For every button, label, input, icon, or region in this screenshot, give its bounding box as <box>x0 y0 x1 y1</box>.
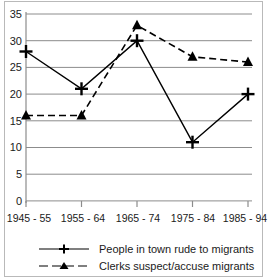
legend-item-people[interactable]: People in town rude to migrants <box>38 241 254 257</box>
series-people-markers <box>20 34 255 149</box>
series-people-line <box>26 41 248 143</box>
x-axis-ticks <box>26 201 248 207</box>
plot-area <box>0 0 274 279</box>
gridlines <box>26 14 252 201</box>
line-chart: 35 30 25 20 15 10 5 0 1945 - 55 1955 - 6… <box>0 0 274 279</box>
legend-swatch-people <box>38 243 90 255</box>
legend-label-people: People in town rude to migrants <box>99 243 254 255</box>
legend-item-clerks[interactable]: Clerks suspect/accuse migrants <box>38 258 254 274</box>
legend-swatch-clerks <box>38 260 90 272</box>
legend-label-clerks: Clerks suspect/accuse migrants <box>99 260 254 272</box>
